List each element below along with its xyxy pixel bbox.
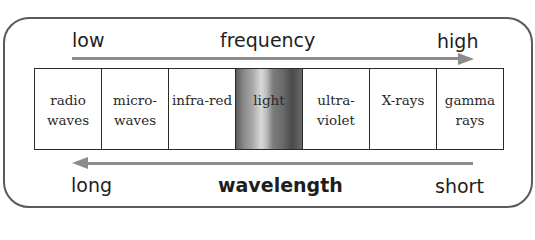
- spectrum-region-infra-red: infra-red: [169, 69, 236, 149]
- wavelength-short-label: short: [435, 177, 484, 196]
- frequency-axis-title: frequency: [220, 31, 315, 50]
- region-label: light: [253, 91, 284, 111]
- spectrum-region-light: light: [236, 69, 303, 149]
- spectrum-region-gamma-rays: gamma rays: [437, 69, 503, 149]
- electromagnetic-spectrum-bar: radio waves micro- waves infra-red light…: [34, 68, 504, 150]
- spectrum-region-microwaves: micro- waves: [102, 69, 169, 149]
- region-label: radio waves: [47, 91, 89, 130]
- wavelength-long-label: long: [71, 176, 112, 195]
- arrow-right-icon: [458, 53, 474, 65]
- wavelength-axis-title: wavelength: [218, 176, 343, 195]
- wavelength-arrow-line: [86, 162, 473, 165]
- frequency-arrow-line: [72, 57, 462, 60]
- region-label: gamma rays: [445, 91, 495, 130]
- spectrum-region-x-rays: X-rays: [370, 69, 437, 149]
- spectrum-region-radio-waves: radio waves: [35, 69, 102, 149]
- frequency-low-label: low: [72, 31, 104, 50]
- region-label: X-rays: [382, 91, 425, 111]
- frequency-high-label: high: [437, 32, 478, 51]
- region-label: ultra- violet: [317, 91, 355, 130]
- spectrum-region-ultraviolet: ultra- violet: [303, 69, 370, 149]
- region-label: infra-red: [172, 91, 232, 111]
- region-label: micro- waves: [113, 91, 157, 130]
